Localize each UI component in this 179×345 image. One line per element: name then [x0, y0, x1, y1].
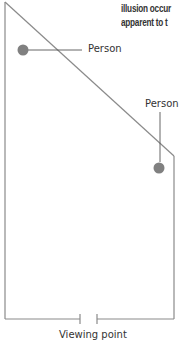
viewing-point-label: Viewing point [59, 329, 127, 340]
person-left-dot [18, 45, 29, 56]
person-right-label: Person [145, 98, 179, 109]
person-left-label: Person [88, 43, 122, 54]
leader-lines [28, 50, 160, 162]
diagonal-wall [5, 2, 174, 156]
person-right-dot [154, 163, 165, 174]
